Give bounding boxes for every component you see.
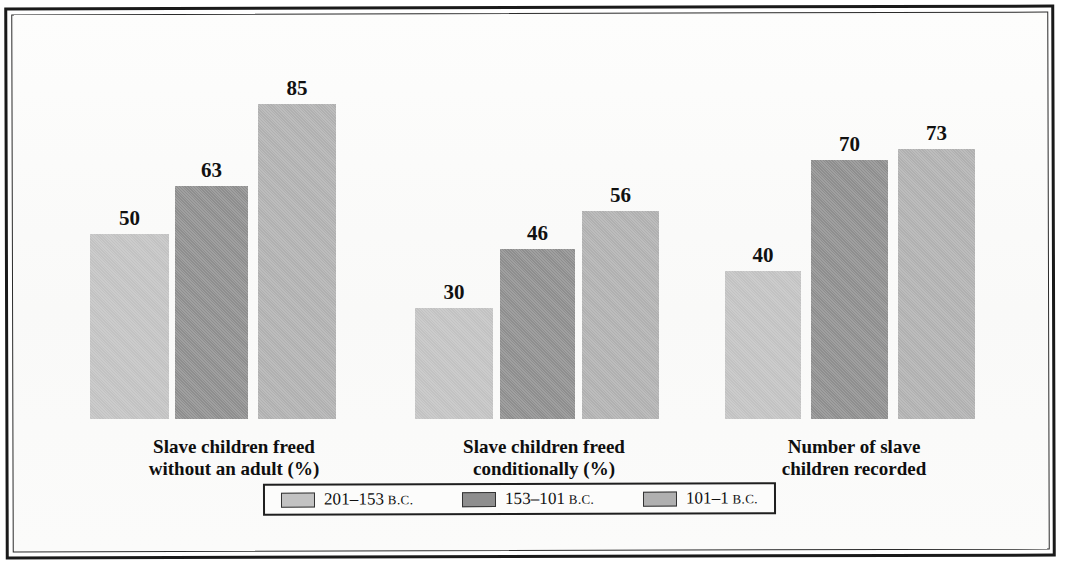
legend-item-label: 201–153 B.C. bbox=[324, 489, 413, 509]
bar-value-label: 85 bbox=[287, 78, 308, 99]
bar-g0-s0: 50 bbox=[90, 234, 169, 419]
bar-g1-s1: 46 bbox=[500, 249, 575, 419]
legend-swatch-icon bbox=[643, 491, 677, 506]
bar-value-label: 30 bbox=[444, 282, 465, 303]
group-label-0: Slave children freed without an adult (%… bbox=[124, 436, 344, 481]
legend-range-text: 201–153 bbox=[324, 489, 384, 508]
bar-value-label: 46 bbox=[527, 223, 548, 244]
bar-g0-s2: 85 bbox=[258, 104, 336, 419]
bar-value-label: 56 bbox=[610, 185, 631, 206]
bar-value-label: 40 bbox=[753, 245, 774, 266]
bar-g2-s0: 40 bbox=[725, 271, 801, 419]
bar-value-label: 73 bbox=[926, 123, 947, 144]
bar-g2-s2: 73 bbox=[898, 149, 975, 419]
legend-swatch-icon bbox=[462, 492, 496, 507]
legend-item-0: 201–153 B.C. bbox=[281, 489, 413, 509]
bar-g0-s1: 63 bbox=[175, 186, 248, 419]
bar-g2-s1: 70 bbox=[811, 160, 888, 419]
bar-g1-s0: 30 bbox=[415, 308, 493, 419]
legend-item-1: 153–101 B.C. bbox=[462, 489, 594, 509]
legend-item-label: 101–1 B.C. bbox=[686, 488, 758, 508]
plot-area: 50 63 85 30 46 56 40 70 bbox=[14, 15, 1047, 549]
legend-range-text: 153–101 bbox=[505, 489, 565, 508]
bar-value-label: 50 bbox=[119, 208, 140, 229]
legend-item-label: 153–101 B.C. bbox=[505, 489, 594, 509]
bar-value-label: 63 bbox=[201, 160, 222, 181]
bar-g1-s2: 56 bbox=[582, 211, 659, 419]
legend-era-text: B.C. bbox=[565, 492, 594, 507]
legend-swatch-icon bbox=[281, 492, 315, 507]
legend-era-text: B.C. bbox=[729, 491, 758, 506]
figure-root: 50 63 85 30 46 56 40 70 bbox=[0, 0, 1066, 570]
chart-legend: 201–153 B.C. 153–101 B.C. 101–1 B.C. bbox=[263, 482, 776, 515]
legend-range-text: 101–1 bbox=[686, 488, 729, 507]
group-label-2: Number of slave children recorded bbox=[744, 436, 964, 481]
bar-value-label: 70 bbox=[839, 134, 860, 155]
legend-item-2: 101–1 B.C. bbox=[643, 488, 758, 508]
group-label-1: Slave children freed conditionally (%) bbox=[434, 436, 654, 481]
legend-era-text: B.C. bbox=[384, 492, 413, 507]
